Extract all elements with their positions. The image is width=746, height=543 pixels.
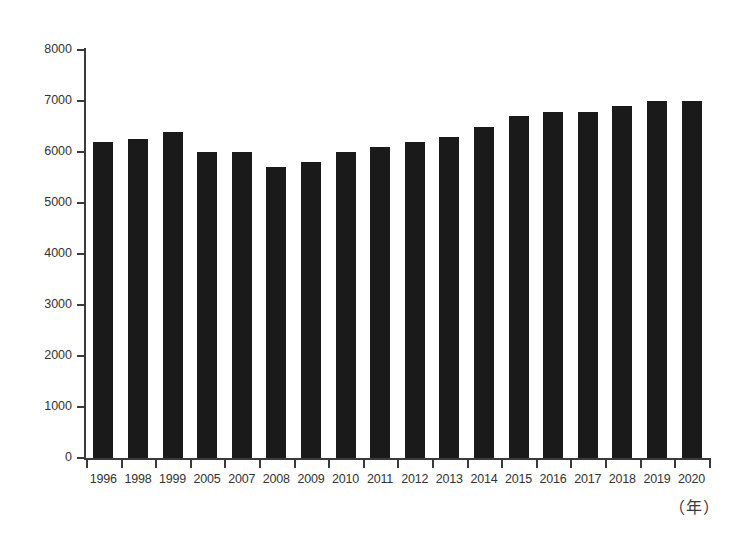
y-axis-tick-label: 4000 <box>24 247 72 260</box>
x-axis-tick-mark <box>121 460 123 468</box>
x-axis-unit-label: （年） <box>669 494 720 518</box>
x-axis-tick-mark <box>224 460 226 468</box>
bar-2019 <box>647 101 667 458</box>
y-axis-tick-label: 8000 <box>24 43 72 56</box>
bar-2015 <box>509 116 529 458</box>
bar-2018 <box>612 106 632 458</box>
bar-2009 <box>301 162 321 458</box>
x-axis-tick-label: 2008 <box>259 472 294 486</box>
x-axis-tick-mark <box>294 460 296 468</box>
bar-2007 <box>232 152 252 458</box>
x-axis-tick-label: 2009 <box>294 472 329 486</box>
bar-2010 <box>336 152 356 458</box>
x-axis-tick-mark <box>397 460 399 468</box>
bar-2011 <box>370 147 390 458</box>
x-axis-tick-mark <box>190 460 192 468</box>
x-axis-tick-label: 1999 <box>155 472 190 486</box>
x-axis-tick-label: 2010 <box>328 472 363 486</box>
bar-1999 <box>163 132 183 458</box>
y-axis-tick-mark <box>77 49 85 51</box>
x-axis-tick-label: 2019 <box>640 472 675 486</box>
y-axis-tick-label: 6000 <box>24 145 72 158</box>
bar-2017 <box>578 112 598 458</box>
y-axis-tick-label: 1000 <box>24 400 72 413</box>
x-axis-tick-mark <box>259 460 261 468</box>
x-axis-tick-mark <box>432 460 434 468</box>
x-axis-tick-mark <box>640 460 642 468</box>
bar-2013 <box>439 137 459 458</box>
bar-1998 <box>128 139 148 458</box>
bar-chart: 010002000300040005000600070008000 199619… <box>0 0 746 543</box>
x-axis-tick-label: 2012 <box>397 472 432 486</box>
x-axis-tick-label: 2018 <box>605 472 640 486</box>
x-axis-tick-mark <box>155 460 157 468</box>
y-axis-tick-mark <box>77 151 85 153</box>
x-axis-tick-mark <box>536 460 538 468</box>
y-axis-tick-mark <box>77 100 85 102</box>
x-axis-tick-label: 2005 <box>190 472 225 486</box>
y-axis-tick-label: 5000 <box>24 196 72 209</box>
bar-1996 <box>93 142 113 458</box>
y-axis-tick-mark <box>77 457 85 459</box>
x-axis-tick-label: 2016 <box>536 472 571 486</box>
x-axis-tick-label: 2017 <box>570 472 605 486</box>
y-axis-tick-mark <box>77 406 85 408</box>
y-axis-tick-label: 2000 <box>24 349 72 362</box>
x-axis-tick-mark <box>674 460 676 468</box>
x-axis-tick-label: 2015 <box>501 472 536 486</box>
x-axis-tick-label: 2013 <box>432 472 467 486</box>
x-axis-tick-label: 2014 <box>467 472 502 486</box>
x-axis-tick-label: 1996 <box>86 472 121 486</box>
y-axis-tick-mark <box>77 253 85 255</box>
x-axis-tick-mark <box>86 460 88 468</box>
y-axis-tick-mark <box>77 304 85 306</box>
x-axis-tick-mark <box>709 460 711 468</box>
y-axis-tick-mark <box>77 202 85 204</box>
x-axis-tick-mark <box>363 460 365 468</box>
x-axis-tick-label: 2011 <box>363 472 398 486</box>
bar-2020 <box>682 101 702 458</box>
bar-2008 <box>266 167 286 458</box>
bar-2016 <box>543 112 563 458</box>
x-axis-tick-mark <box>605 460 607 468</box>
x-axis-tick-mark <box>501 460 503 468</box>
x-axis-tick-label: 1998 <box>121 472 156 486</box>
bar-2012 <box>405 142 425 458</box>
y-axis-tick-label: 3000 <box>24 298 72 311</box>
x-axis-tick-label: 2007 <box>224 472 259 486</box>
x-axis-tick-mark <box>467 460 469 468</box>
x-axis-tick-label: 2020 <box>674 472 709 486</box>
y-axis-tick-label: 7000 <box>24 94 72 107</box>
x-axis-tick-mark <box>328 460 330 468</box>
x-axis-tick-mark <box>570 460 572 468</box>
y-axis-tick-label: 0 <box>24 451 72 464</box>
bar-2005 <box>197 152 217 458</box>
y-axis-tick-mark <box>77 355 85 357</box>
bar-2014 <box>474 127 494 459</box>
